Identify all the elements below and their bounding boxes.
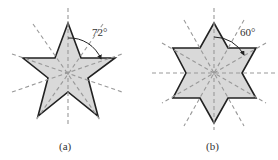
caption-a: (a) [59, 140, 71, 152]
diagram-canvas: 72° 60° [0, 0, 278, 160]
caption-b: (b) [206, 140, 219, 152]
angle-label-b: 60° [240, 26, 255, 38]
angle-label-a: 72° [92, 26, 107, 38]
figure-a-five-point-star: 72° [12, 8, 122, 125]
figure-b-six-point-star: 60° [152, 8, 276, 130]
